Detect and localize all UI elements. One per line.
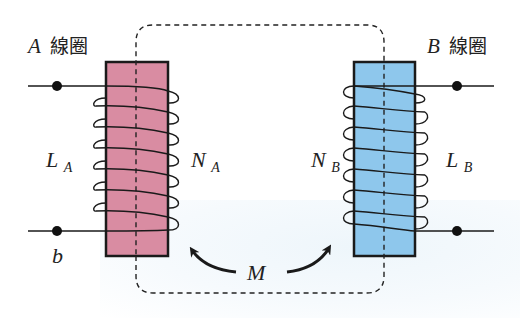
mutual-inductance-label: M [246, 260, 267, 285]
coil-a-core [106, 62, 168, 256]
terminal-a-bottom [52, 226, 62, 236]
terminal-b-bottom [452, 226, 462, 236]
terminal-a-top [52, 81, 62, 91]
inductance-a-label: L A [45, 147, 73, 175]
coil-a-title: A 線圈 [26, 34, 88, 58]
turns-a-label: N A [190, 147, 220, 175]
mutual-arrow-right-icon [287, 248, 329, 272]
turns-b-label: N B [310, 147, 340, 175]
terminal-b-top [452, 81, 462, 91]
terminal-b-label: b [52, 243, 63, 268]
inductance-b-label: L B [445, 147, 473, 175]
coil-b-title: B 線圈 [427, 34, 487, 58]
mutual-arrow-left-icon [192, 250, 236, 272]
